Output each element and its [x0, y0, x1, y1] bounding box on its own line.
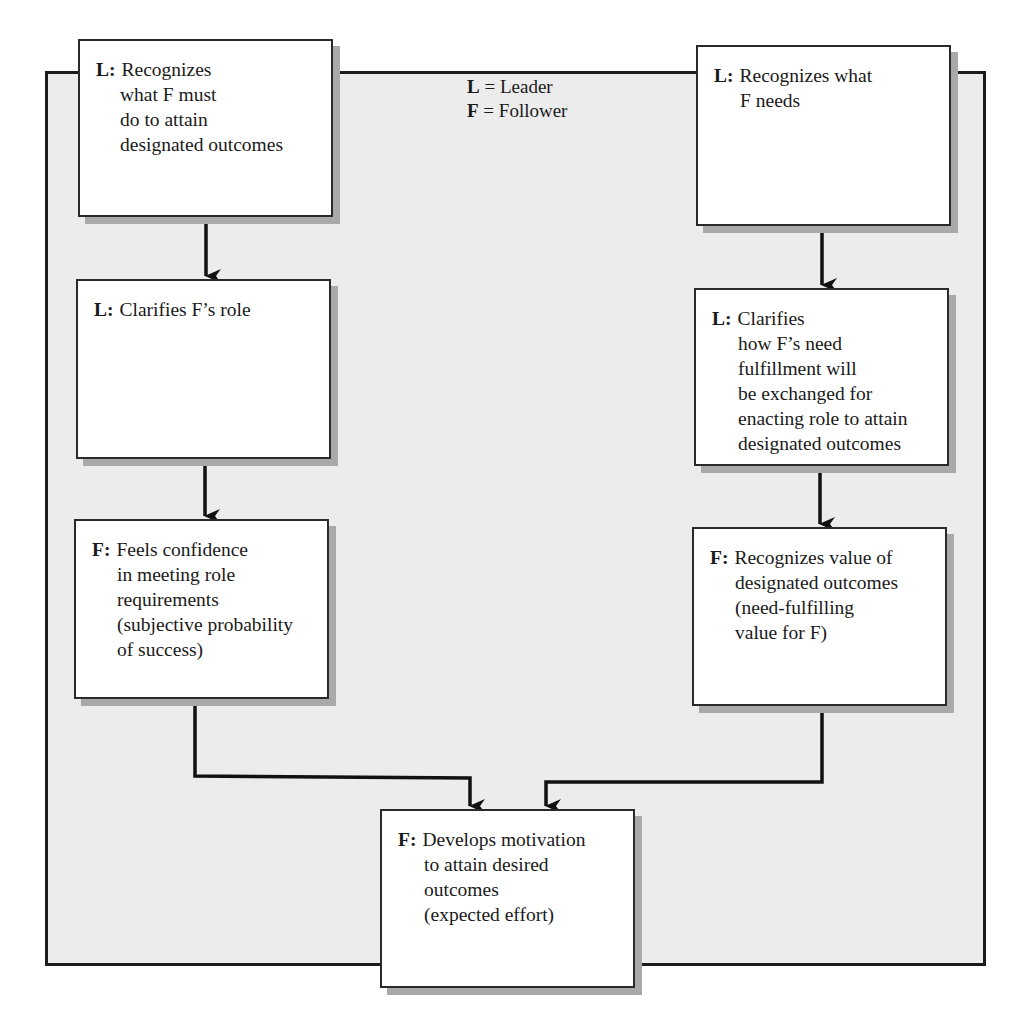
box-leader-recognizes-needs: L: Recognizes what F needs — [696, 45, 951, 226]
role-label: L: — [712, 306, 732, 331]
box-text-line: outcomes — [424, 877, 623, 902]
box-follower-develops-motivation: F: Develops motivation to attain desired… — [380, 809, 635, 988]
legend-meaning: Follower — [499, 100, 568, 121]
box-text-line: Recognizes value of — [734, 545, 892, 570]
box-text-line: F needs — [740, 88, 939, 113]
box-text-line: what F must — [120, 82, 321, 107]
legend-entry-leader: L = Leader — [467, 75, 567, 99]
box-text-line: Recognizes — [122, 57, 212, 82]
box-text-line: (subjective probability — [117, 612, 317, 637]
box-text-line: Feels confidence — [116, 537, 248, 562]
box-text-line: of success) — [117, 637, 317, 662]
box-follower-feels-confidence: F: Feels confidence in meeting role requ… — [74, 519, 329, 699]
box-text-line: (need-fulfilling — [735, 595, 935, 620]
box-text-line: to attain desired — [424, 852, 623, 877]
box-text-line: be exchanged for — [738, 381, 937, 406]
box-leader-clarifies-need-exchange: L: Clarifies how F’s need fulfillment wi… — [694, 288, 949, 466]
box-text-line: designated outcomes — [735, 570, 935, 595]
legend-meaning: Leader — [500, 76, 553, 97]
legend-key: L — [467, 76, 480, 97]
box-text-line: fulfillment will — [738, 356, 937, 381]
box-follower-recognizes-value: F: Recognizes value of designated outcom… — [692, 527, 947, 706]
role-label: L: — [96, 57, 116, 82]
role-label: F: — [92, 537, 110, 562]
legend-separator: = — [480, 76, 500, 97]
box-leader-clarifies-role: L: Clarifies F’s role — [76, 279, 331, 459]
legend-key: F — [467, 100, 479, 121]
box-text-line: how F’s need — [738, 331, 937, 356]
box-text-line: in meeting role — [117, 562, 317, 587]
role-label: F: — [398, 827, 416, 852]
box-text-line: Develops motivation — [422, 827, 585, 852]
box-leader-recognizes-requirements: L: Recognizes what F must do to attain d… — [78, 39, 333, 217]
legend-separator: = — [479, 100, 499, 121]
box-text-line: designated outcomes — [738, 431, 937, 456]
box-text-line: do to attain — [120, 107, 321, 132]
box-text-line: Recognizes what — [740, 63, 873, 88]
legend: L = Leader F = Follower — [467, 75, 567, 123]
box-text-line: requirements — [117, 587, 317, 612]
box-text-line: enacting role to attain — [738, 406, 937, 431]
box-text-line: Clarifies F’s role — [120, 297, 251, 322]
legend-entry-follower: F = Follower — [467, 99, 567, 123]
box-text-line: designated outcomes — [120, 132, 321, 157]
box-text-line: (expected effort) — [424, 902, 623, 927]
role-label: L: — [714, 63, 734, 88]
role-label: F: — [710, 545, 728, 570]
role-label: L: — [94, 297, 114, 322]
box-text-line: Clarifies — [738, 306, 805, 331]
box-text-line: value for F) — [735, 620, 935, 645]
